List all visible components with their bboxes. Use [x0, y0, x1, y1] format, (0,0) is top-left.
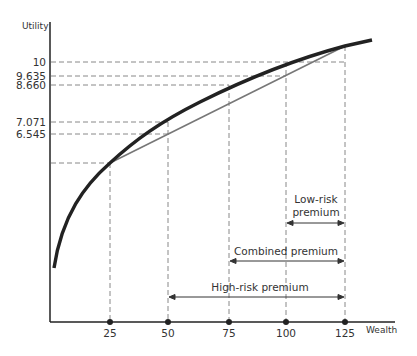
y-tick-6545: 6.545: [16, 128, 46, 140]
utility-diagram: Utility Wealth 10 9.635 8.660 7.071 6.54…: [0, 0, 417, 356]
y-tick-10: 10: [33, 56, 46, 68]
x-tick-labels: 25 50 75 100 125: [103, 327, 355, 339]
combined-premium-label: Combined premium: [234, 245, 338, 257]
chord-line: [110, 46, 345, 163]
x-axis-label: Wealth: [366, 325, 397, 335]
y-tick-7071: 7.071: [16, 116, 46, 128]
x-tick-25: 25: [103, 327, 116, 339]
utility-curve: [54, 40, 372, 268]
x-tick-50: 50: [161, 327, 174, 339]
horizontal-guides: [51, 62, 345, 163]
y-tick-labels: 10 9.635 8.660 7.071 6.545: [16, 56, 46, 140]
x-tick-100: 100: [276, 327, 296, 339]
x-tick-125: 125: [335, 327, 355, 339]
low-risk-label-line1: Low-risk: [294, 193, 338, 205]
high-risk-premium-label: High-risk premium: [211, 281, 308, 293]
y-tick-8660: 8.660: [16, 79, 46, 91]
low-risk-label-line2: premium: [292, 206, 339, 218]
x-tick-75: 75: [222, 327, 235, 339]
y-axis-label: Utility: [22, 21, 49, 31]
